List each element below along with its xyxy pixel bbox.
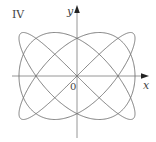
x-axis-label: x bbox=[143, 79, 150, 92]
lissajous-figure: IV y x 0 bbox=[0, 0, 156, 142]
panel-label: IV bbox=[12, 8, 25, 21]
y-axis-arrow-icon bbox=[74, 5, 80, 13]
y-axis-label: y bbox=[66, 5, 74, 18]
origin-label: 0 bbox=[70, 81, 76, 92]
x-axis-arrow-icon bbox=[141, 73, 149, 79]
